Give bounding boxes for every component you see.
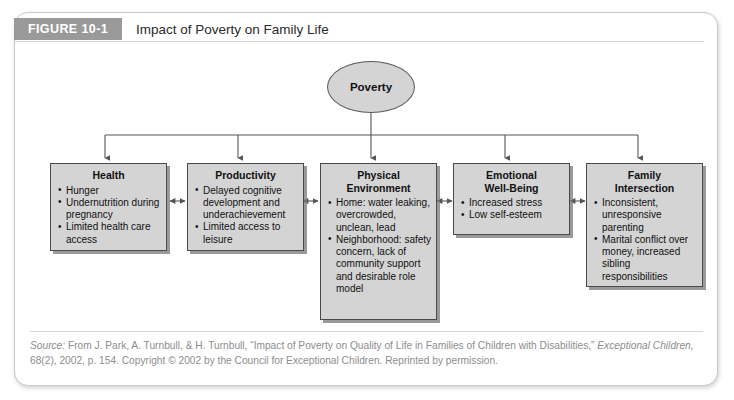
list-item: Neighborhood: safety concern, lack of co…: [328, 234, 432, 295]
title-line-1: Physical: [357, 169, 400, 181]
list-item: Delayed cognitive development and undera…: [195, 185, 299, 222]
node-productivity-list: Delayed cognitive development and undera…: [188, 185, 303, 246]
list-item: Limited access to leisure: [195, 221, 299, 246]
caption-journal-name: Exceptional Children,: [597, 340, 693, 351]
node-health-title: Health: [51, 164, 166, 185]
caption-source-label: Source:: [30, 340, 65, 351]
node-productivity-title: Productivity: [188, 164, 303, 185]
node-family-intersection: Family Intersection Inconsistent, unresp…: [586, 163, 703, 287]
list-item: Low self-esteem: [461, 209, 565, 221]
node-emotional-well-being: Emotional Well-Being Increased stress Lo…: [453, 163, 570, 235]
node-family-intersection-list: Inconsistent, unresponsive parenting Mar…: [587, 197, 702, 283]
caption-body: From J. Park, A. Turnbull, & H. Turnbull…: [65, 340, 597, 351]
list-item: Marital conflict over money, increased s…: [594, 234, 698, 283]
node-physical-environment-title: Physical Environment: [321, 164, 436, 197]
list-item: Increased stress: [461, 197, 565, 209]
node-poverty-label: Poverty: [327, 61, 415, 113]
list-item: Limited health care access: [58, 221, 162, 246]
node-productivity: Productivity Delayed cognitive developme…: [187, 163, 304, 251]
caption-line-2: 68(2), 2002, p. 154. Copyright © 2002 by…: [30, 355, 498, 366]
node-emotional-well-being-list: Increased stress Low self-esteem: [454, 197, 569, 222]
list-item: Undernutrition during pregnancy: [58, 197, 162, 222]
list-item: Inconsistent, unresponsive parenting: [594, 197, 698, 234]
node-physical-environment: Physical Environment Home: water leaking…: [320, 163, 437, 320]
caption-divider: [30, 331, 703, 332]
title-line-1: Emotional: [486, 169, 537, 181]
node-physical-environment-list: Home: water leaking, overcrowded, unclea…: [321, 197, 436, 295]
figure-number-badge: FIGURE 10-1: [14, 18, 122, 40]
figure-header: FIGURE 10-1 Impact of Poverty on Family …: [14, 18, 704, 40]
title-line-2: Intersection: [615, 182, 675, 194]
title-line-2: Well-Being: [484, 182, 538, 194]
figure-root: FIGURE 10-1 Impact of Poverty on Family …: [0, 0, 734, 400]
node-health: Health Hunger Undernutrition during preg…: [50, 163, 167, 251]
node-family-intersection-title: Family Intersection: [587, 164, 702, 197]
source-caption: Source: From J. Park, A. Turnbull, & H. …: [30, 338, 705, 368]
list-item: Home: water leaking, overcrowded, unclea…: [328, 197, 432, 234]
figure-title: Impact of Poverty on Family Life: [136, 18, 329, 40]
node-emotional-well-being-title: Emotional Well-Being: [454, 164, 569, 197]
header-divider: [14, 41, 704, 42]
node-health-list: Hunger Undernutrition during pregnancy L…: [51, 185, 166, 246]
list-item: Hunger: [58, 185, 162, 197]
title-line-1: Family: [628, 169, 661, 181]
node-poverty: Poverty: [327, 61, 415, 113]
title-line-2: Environment: [346, 182, 410, 194]
